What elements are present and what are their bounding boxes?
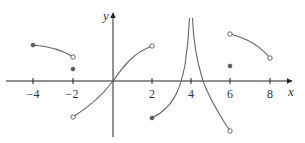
curve-segment-3 xyxy=(152,18,190,118)
open-endpoint-8 xyxy=(268,56,272,60)
tick-label-8: 8 xyxy=(267,87,273,101)
curve-segment-5 xyxy=(230,34,270,58)
closed-endpoint-neg4 xyxy=(31,43,35,47)
open-endpoint-neg2-lower xyxy=(71,115,75,119)
curve-segment-1 xyxy=(33,45,73,57)
open-endpoint-neg2-upper xyxy=(71,55,75,59)
tick-label-neg4: −4 xyxy=(27,87,40,101)
tick-label-2: 2 xyxy=(149,87,155,101)
open-endpoint-6-lower xyxy=(228,129,232,133)
open-endpoint-6-upper xyxy=(228,32,232,36)
y-axis-label: y xyxy=(101,8,109,23)
function-graph: −4 −2 2 4 6 8 x y xyxy=(0,0,305,143)
tick-label-4: 4 xyxy=(188,87,194,101)
tick-label-neg2: −2 xyxy=(66,87,79,101)
tick-label-6: 6 xyxy=(227,87,233,101)
open-endpoint-2-upper xyxy=(150,44,154,48)
x-axis-label: x xyxy=(287,84,294,99)
isolated-point-6 xyxy=(228,64,232,68)
closed-endpoint-2-lower xyxy=(150,116,154,120)
isolated-point-neg2 xyxy=(71,67,75,71)
curve-segment-4 xyxy=(193,18,231,131)
